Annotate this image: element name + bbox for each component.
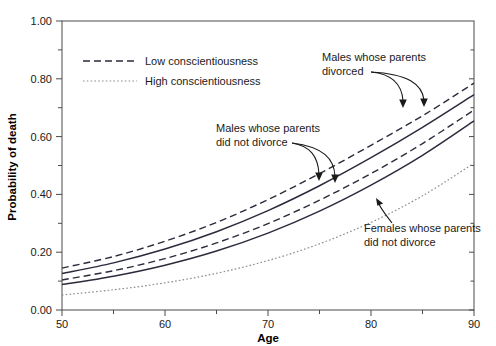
annotation-females-not-divorced: Females whose parents did not divorce	[364, 198, 481, 248]
legend-label-low-conscientiousness: Low conscientiousness	[145, 55, 259, 67]
right-axis-ticks	[469, 50, 474, 310]
data-curves	[62, 83, 474, 295]
annotation-males-divorced-arrowhead-2	[420, 98, 428, 107]
y-tick-label: 0.20	[31, 246, 52, 258]
x-tick-labels: 50 60 70 80 90	[56, 318, 480, 330]
x-axis-ticks	[62, 310, 474, 316]
annotation-males-not-divorced-arrowhead-1	[315, 172, 323, 181]
annotation-females-not-divorced-arrowhead	[376, 198, 383, 206]
y-tick-label: 0.60	[31, 131, 52, 143]
plot-frame	[62, 21, 474, 310]
x-tick-label: 90	[468, 318, 480, 330]
x-tick-label: 80	[365, 318, 377, 330]
legend-label-high-conscientiousness: High conscientiousness	[145, 75, 261, 87]
annotation-males-not-divorced-line1: Males whose parents	[216, 122, 320, 134]
legend: Low conscientiousness High conscientious…	[83, 55, 261, 87]
annotation-males-divorced: Males whose parents divorced	[322, 51, 428, 108]
annotation-males-not-divorced: Males whose parents did not divorce	[216, 122, 339, 183]
annotation-males-divorced-line2: divorced	[322, 65, 364, 77]
annotation-males-divorced-leader-2	[371, 72, 424, 100]
annotation-males-not-divorced-line2: did not divorce	[216, 136, 288, 148]
y-axis-ticks	[56, 21, 62, 310]
y-tick-label: 0.40	[31, 188, 52, 200]
y-tick-label: 0.80	[31, 73, 52, 85]
x-tick-label: 70	[262, 318, 274, 330]
y-tick-label: 0.00	[31, 304, 52, 316]
chart-page: 0.00 0.20 0.40 0.60 0.80 1.00 50 60 70 8…	[0, 0, 496, 346]
probability-of-death-chart: 0.00 0.20 0.40 0.60 0.80 1.00 50 60 70 8…	[0, 0, 496, 346]
annotation-females-not-divorced-leader	[379, 204, 392, 223]
annotation-males-divorced-arrowhead-1	[399, 99, 407, 108]
x-tick-label: 50	[56, 318, 68, 330]
y-tick-label: 1.00	[31, 15, 52, 27]
y-axis-title: Probability of death	[6, 113, 18, 220]
annotation-males-not-divorced-leader-1	[292, 143, 319, 174]
y-tick-labels: 0.00 0.20 0.40 0.60 0.80 1.00	[31, 15, 52, 316]
x-tick-label: 60	[159, 318, 171, 330]
annotation-females-not-divorced-line2: did not divorce	[364, 236, 436, 248]
annotation-females-not-divorced-line1: Females whose parents	[364, 222, 481, 234]
annotation-males-not-divorced-leader-2	[292, 143, 335, 176]
x-axis-title: Age	[257, 332, 279, 344]
annotation-males-divorced-line1: Males whose parents	[322, 51, 426, 63]
